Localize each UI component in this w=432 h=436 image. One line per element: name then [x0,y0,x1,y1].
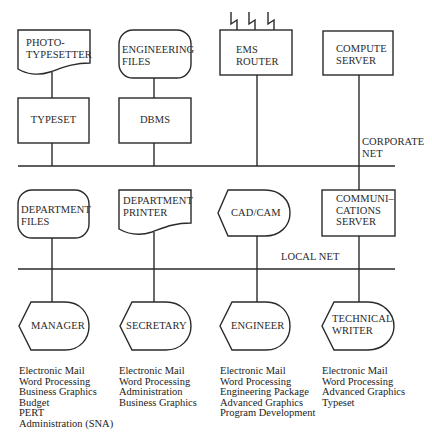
engineering-files-label: ENGINEERING FILES [122,44,194,67]
technical-writer-applications: Electronic Mail Word Processing Advanced… [322,366,405,408]
communications-server-label: COMMUNI– CATIONS SERVER [336,193,394,228]
compute-server-label-line2: SERVER [336,55,387,67]
communications-server-label-line3: SERVER [336,216,394,228]
engineering-files-label-line2: FILES [122,56,194,68]
cad-cam-label: CAD/CAM [231,207,281,219]
corporate-net-label-line2: NET [362,148,424,160]
communications-server-label-line1: COMMUNI– [336,193,394,205]
phototypesetter-label-line2: TYPESETTER [26,49,92,61]
secretary-applications: Electronic Mail Word Processing Administ… [119,366,197,408]
list-item: Electronic Mail [322,366,405,377]
phototypesetter-label-line1: PHOTO- [26,37,92,49]
engineering-files-label-line1: ENGINEERING [122,44,194,56]
list-item: Business Graphics [119,398,197,409]
secretary-label: SECRETARY [126,320,187,332]
list-item: Electronic Mail [220,366,315,377]
manager-label: MANAGER [31,320,85,332]
lightning-link-1 [231,12,237,30]
technical-writer-label: TECHNICAL WRITER [332,313,392,336]
list-item: Program Development [220,408,315,419]
department-printer-label-line2: PRINTER [123,207,193,219]
engineer-applications: Electronic Mail Word Processing Engineer… [220,366,315,419]
typeset-label: TYPESET [18,114,89,126]
department-files-label: DEPARTMENT FILES [21,204,91,227]
manager-applications: Electronic Mail Word Processing Business… [19,366,113,430]
list-item: Typeset [322,398,405,409]
department-printer-label: DEPARTMENT PRINTER [123,195,193,218]
compute-server-label-line1: COMPUTE [336,43,387,55]
technical-writer-label-line1: TECHNICAL [332,313,392,325]
lightning-link-2 [249,12,255,30]
department-files-label-line2: FILES [21,216,91,228]
phototypesetter-label: PHOTO- TYPESETTER [26,37,92,60]
list-item: Electronic Mail [19,366,113,377]
dbms-label: DBMS [119,114,191,126]
ems-router-label-line1: EMS [236,44,279,56]
ems-router-label: EMS ROUTER [236,44,279,67]
local-net-label: LOCAL NET [281,251,340,263]
department-printer-label-line1: DEPARTMENT [123,195,193,207]
communications-server-label-line2: CATIONS [336,205,394,217]
ems-router-label-line2: ROUTER [236,56,279,68]
compute-server-label: COMPUTE SERVER [336,43,387,66]
list-item: Electronic Mail [119,366,197,377]
list-item: Administration (SNA) [19,419,113,430]
corporate-net-label-line1: CORPORATE [362,136,424,148]
corporate-net-label: CORPORATE NET [362,136,424,159]
department-files-label-line1: DEPARTMENT [21,204,91,216]
engineer-label: ENGINEER [231,320,284,332]
technical-writer-label-line2: WRITER [332,325,392,337]
lightning-link-3 [268,12,274,30]
